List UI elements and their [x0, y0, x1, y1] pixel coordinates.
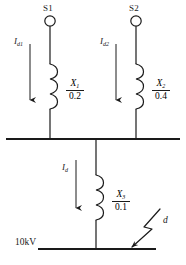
reactance-symbol-x2: X2 — [152, 79, 170, 90]
source-s1-branch — [30, 16, 58, 139]
inductor-x3-coil — [96, 175, 104, 220]
reactance-subscript-x1: 1 — [76, 83, 79, 89]
reactance-subscript-x3: 3 — [122, 194, 125, 200]
reactance-symbol-x3: X3 — [112, 190, 130, 201]
current-label-id: Id — [62, 163, 68, 172]
current-subscript-id2: d2 — [103, 41, 109, 47]
inductor-x2-coil — [136, 64, 144, 109]
fault-lightning-icon — [132, 209, 160, 247]
current-label-id2: Id2 — [100, 37, 109, 46]
current-subscript-id1: d1 — [17, 41, 23, 47]
reactance-value-x2: 0.4 — [152, 91, 170, 102]
current-subscript-id: d — [65, 167, 68, 173]
reactance-label-x2: X2 0.4 — [152, 79, 170, 101]
circuit-schematic-svg — [0, 0, 186, 265]
reactance-subscript-x2: 2 — [162, 83, 165, 89]
reactance-value-x3: 0.1 — [112, 202, 130, 213]
source-s2-symbol — [131, 16, 141, 26]
fault-point-label: d — [163, 216, 168, 226]
voltage-level-label: 10kV — [15, 238, 36, 248]
inductor-x1-coil — [50, 64, 58, 109]
source-s1-symbol — [45, 16, 55, 26]
reactance-value-x1: 0.2 — [66, 91, 84, 102]
source-s2-branch — [116, 16, 144, 139]
feeder-branch — [76, 139, 104, 249]
reactance-label-x1: X1 0.2 — [66, 79, 84, 101]
fault-indicator-d — [132, 209, 160, 247]
reactance-label-x3: X3 0.1 — [112, 190, 130, 212]
source-s1-label: S1 — [43, 4, 53, 13]
circuit-diagram: S1 S2 Id1 Id2 Id X1 0.2 X2 0.4 X3 0.1 10… — [0, 0, 186, 265]
current-label-id1: Id1 — [14, 37, 23, 46]
reactance-symbol-x1: X1 — [66, 79, 84, 90]
source-s2-label: S2 — [129, 4, 139, 13]
